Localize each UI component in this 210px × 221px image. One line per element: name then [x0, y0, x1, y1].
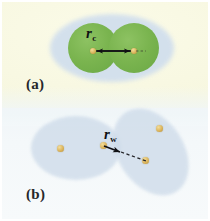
panel-b-radius-symbol: rw — [104, 126, 117, 144]
panel-b-radius-symbol-subscript: w — [110, 134, 117, 144]
panel-a-nucleus-right — [131, 48, 137, 54]
panel-b-nucleus-left-outer — [57, 145, 64, 152]
panel-a-radius-symbol-subscript: c — [92, 33, 96, 43]
panel-b-nucleus-right-lower — [142, 157, 149, 164]
panel-a-radius-symbol-base: r — [86, 25, 92, 41]
panel-b-label: (b) — [26, 186, 45, 203]
panel-a-label: (a) — [26, 76, 44, 93]
panel-a-nucleus-left — [90, 48, 96, 54]
panel-a-radius-symbol: rc — [86, 25, 96, 43]
figure-container: rc rw (a) (b) — [0, 0, 210, 221]
panel-b-nucleus-right-upper — [156, 125, 163, 132]
panel-b-radius-symbol-base: r — [104, 126, 110, 142]
